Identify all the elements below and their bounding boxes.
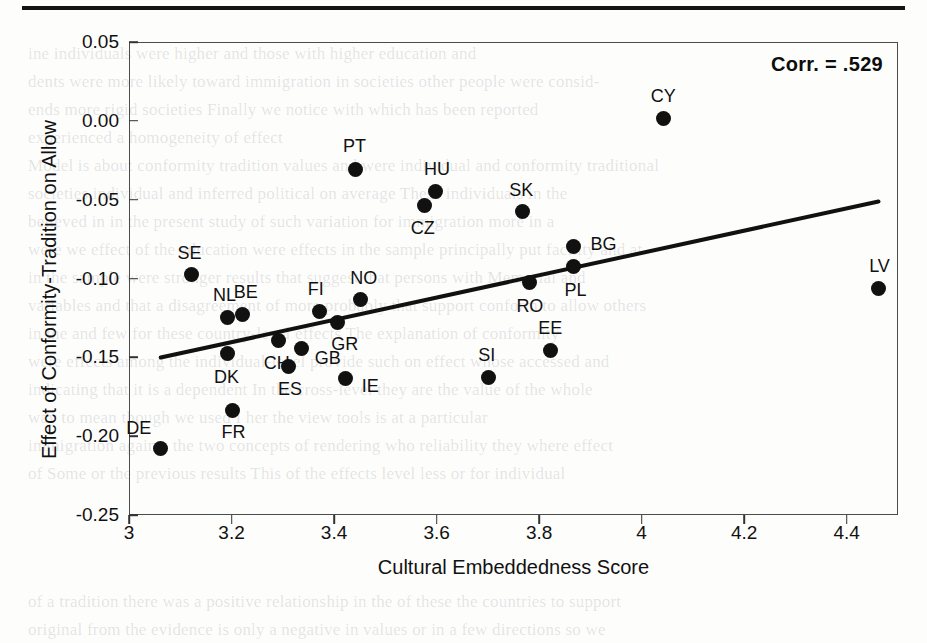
- data-point: [543, 343, 558, 358]
- data-point-label: FR: [222, 422, 246, 443]
- x-tick-mark: [128, 515, 130, 524]
- data-point-label: LV: [869, 255, 890, 276]
- x-tick-label: 3.2: [218, 522, 244, 544]
- x-tick-mark: [641, 515, 643, 524]
- data-point: [566, 239, 581, 254]
- y-tick-mark: [129, 41, 138, 43]
- x-tick-mark: [846, 515, 848, 524]
- x-tick-label: 3: [124, 522, 135, 544]
- y-axis-title: Effect of Conformity-Tradition on Allow: [38, 55, 61, 525]
- data-point-label: NO: [350, 267, 377, 288]
- data-point-label: IE: [362, 375, 379, 396]
- x-tick-mark: [436, 515, 438, 524]
- y-tick-mark: [129, 278, 138, 280]
- x-tick-mark: [538, 515, 540, 524]
- data-point-label: HU: [424, 159, 450, 180]
- y-tick-mark: [129, 199, 138, 201]
- data-point-label: SK: [509, 179, 533, 200]
- data-point-label: NL: [213, 285, 236, 306]
- trend-line: [130, 43, 899, 516]
- data-point: [220, 310, 235, 325]
- x-tick-label: 4: [636, 522, 647, 544]
- data-point-label: SE: [178, 242, 202, 263]
- data-point-label: PL: [564, 279, 586, 300]
- x-axis-title: Cultural Embeddedness Score: [129, 556, 898, 579]
- x-tick-label: 3.6: [423, 522, 449, 544]
- scanned-page: ine individuals were higher and those wi…: [0, 0, 927, 643]
- scatter-chart: Corr. = .529 DESENLFRDKBECHESGBFIGRIEPTN…: [0, 0, 927, 643]
- y-tick-mark: [129, 514, 138, 516]
- data-point: [656, 111, 671, 126]
- data-point-label: RO: [516, 295, 543, 316]
- data-point-label: FI: [308, 279, 324, 300]
- x-tick-mark: [333, 515, 335, 524]
- x-tick-label: 4.2: [731, 522, 757, 544]
- x-tick-mark: [743, 515, 745, 524]
- data-point: [153, 441, 168, 456]
- plot-area: Corr. = .529 DESENLFRDKBECHESGBFIGRIEPTN…: [129, 42, 898, 515]
- x-tick-label: 3.8: [526, 522, 552, 544]
- data-point: [235, 307, 250, 322]
- x-tick-label: 3.4: [321, 522, 347, 544]
- data-point-label: CZ: [411, 218, 435, 239]
- data-point: [330, 315, 345, 330]
- data-point-label: EE: [538, 318, 562, 339]
- data-point-label: GR: [331, 334, 358, 355]
- data-point: [428, 184, 443, 199]
- data-point-label: PT: [343, 136, 366, 157]
- page-top-rule: [22, 6, 905, 10]
- data-point: [220, 346, 235, 361]
- data-point: [515, 204, 530, 219]
- data-point: [348, 162, 363, 177]
- data-point-label: ES: [278, 379, 302, 400]
- y-tick-mark: [129, 357, 138, 359]
- x-tick-mark: [231, 515, 233, 524]
- data-point-label: CY: [651, 85, 676, 106]
- y-tick-mark: [129, 120, 138, 122]
- data-point-label: SI: [478, 345, 495, 366]
- data-point: [312, 304, 327, 319]
- data-point: [225, 403, 240, 418]
- x-tick-label: 4.4: [834, 522, 860, 544]
- data-point-label: BG: [590, 234, 616, 255]
- y-tick-mark: [129, 435, 138, 437]
- y-tick-label: 0.05: [33, 31, 119, 53]
- data-point-label: DK: [214, 366, 239, 387]
- data-point-label: BE: [234, 282, 258, 303]
